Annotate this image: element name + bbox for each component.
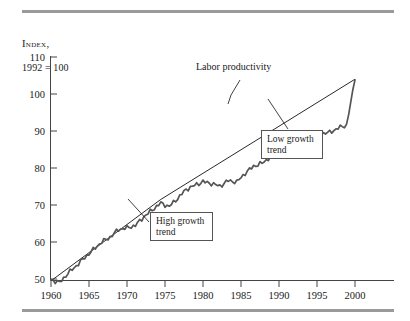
y-tick-label: 60 bbox=[35, 237, 46, 248]
labor-productivity-leader-line bbox=[228, 80, 240, 104]
y-tick-label: 70 bbox=[35, 200, 46, 211]
labor-productivity-annotation: Labor productivity bbox=[196, 61, 271, 72]
x-tick-label: 1960 bbox=[41, 290, 62, 301]
x-axis-tick-labels: 1960 1965 1970 1975 1980 1985 1990 1995 … bbox=[41, 290, 366, 301]
x-axis-ticks bbox=[51, 281, 355, 288]
x-tick-label: 1985 bbox=[231, 290, 252, 301]
labor-productivity-series bbox=[51, 80, 355, 284]
high-growth-trend-label-line2: trend bbox=[156, 227, 176, 237]
y-tick-label: 50 bbox=[35, 274, 46, 285]
y-axis-tick-labels: 110 100 90 80 70 60 50 bbox=[29, 52, 45, 285]
high-growth-trend-label-line1: High growth bbox=[156, 216, 204, 226]
y-tick-label: 80 bbox=[35, 163, 46, 174]
y-tick-label: 110 bbox=[30, 52, 45, 63]
x-tick-label: 2000 bbox=[345, 290, 366, 301]
low-growth-trend-line bbox=[161, 79, 355, 199]
chart-plot: 110 100 90 80 70 60 50 1960 1965 1970 19… bbox=[0, 0, 410, 321]
x-tick-label: 1965 bbox=[79, 290, 100, 301]
low-growth-trend-label-line2: trend bbox=[267, 145, 287, 155]
low-growth-trend-label-line1: Low growth bbox=[267, 134, 314, 144]
y-tick-label: 90 bbox=[35, 126, 46, 137]
low-growth-trend-label-box: Low growth trend bbox=[261, 130, 323, 159]
x-tick-label: 1980 bbox=[193, 290, 214, 301]
y-axis-ticks bbox=[51, 57, 58, 279]
x-tick-label: 1990 bbox=[269, 290, 290, 301]
x-tick-label: 1970 bbox=[117, 290, 138, 301]
x-tick-label: 1975 bbox=[155, 290, 176, 301]
high-growth-trend-label-box: High growth trend bbox=[150, 212, 213, 241]
high-growth-trend-line bbox=[51, 199, 161, 280]
low-growth-leader-line bbox=[268, 99, 288, 129]
y-tick-label: 100 bbox=[29, 89, 45, 100]
x-tick-label: 1995 bbox=[307, 290, 328, 301]
figure-container: Index, 1992 = 100 110 100 90 80 70 60 50 bbox=[0, 0, 410, 321]
